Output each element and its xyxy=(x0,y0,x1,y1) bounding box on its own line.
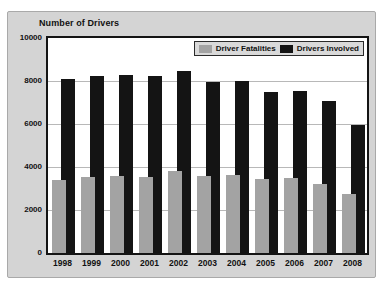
bar-driver-fatalities-2006 xyxy=(284,178,298,253)
bar-driver-fatalities-2005 xyxy=(255,179,269,253)
x-tick-2003: 2003 xyxy=(193,258,222,268)
y-tick-6000: 6000 xyxy=(8,119,42,129)
bar-driver-fatalities-2007 xyxy=(313,184,327,253)
chart-title: Number of Drivers xyxy=(39,18,119,28)
legend-label-drivers-involved: Drivers Involved xyxy=(297,44,359,53)
x-tick-2008: 2008 xyxy=(338,258,367,268)
bar-driver-fatalities-2004 xyxy=(226,175,240,253)
bar-driver-fatalities-2008 xyxy=(342,194,356,253)
legend-label-driver-fatalities: Driver Fatalities xyxy=(216,44,276,53)
y-tick-0: 0 xyxy=(8,248,42,258)
x-tick-2000: 2000 xyxy=(106,258,135,268)
bar-driver-fatalities-1998 xyxy=(52,180,66,253)
x-tick-2006: 2006 xyxy=(280,258,309,268)
chart-panel: Number of Drivers Driver Fatalities Driv… xyxy=(7,11,376,278)
x-tick-2002: 2002 xyxy=(164,258,193,268)
x-tick-2007: 2007 xyxy=(309,258,338,268)
x-tick-2004: 2004 xyxy=(222,258,251,268)
x-tick-2005: 2005 xyxy=(251,258,280,268)
y-tick-4000: 4000 xyxy=(8,162,42,172)
bar-driver-fatalities-2003 xyxy=(197,176,211,253)
plot-area: Driver Fatalities Drivers Involved xyxy=(46,36,369,255)
y-tick-10000: 10000 xyxy=(8,33,42,43)
legend: Driver Fatalities Drivers Involved xyxy=(194,41,364,56)
bar-driver-fatalities-2001 xyxy=(139,177,153,253)
y-tick-2000: 2000 xyxy=(8,205,42,215)
x-tick-1998: 1998 xyxy=(48,258,77,268)
bar-driver-fatalities-1999 xyxy=(81,177,95,253)
x-tick-1999: 1999 xyxy=(77,258,106,268)
legend-swatch-driver-fatalities xyxy=(199,45,212,53)
bar-driver-fatalities-2000 xyxy=(110,176,124,253)
legend-swatch-drivers-involved xyxy=(280,45,293,53)
y-tick-8000: 8000 xyxy=(8,76,42,86)
bar-driver-fatalities-2002 xyxy=(168,171,182,253)
x-tick-2001: 2001 xyxy=(135,258,164,268)
